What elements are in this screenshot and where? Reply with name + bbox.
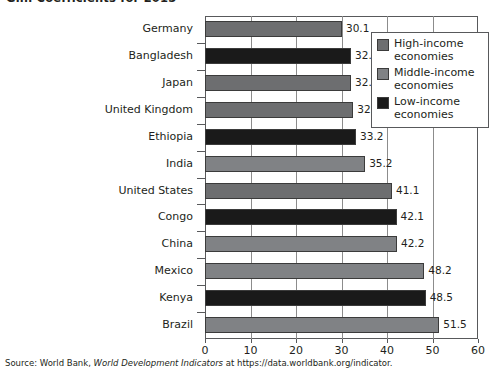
legend-item[interactable]: Low-incomeeconomies — [377, 96, 482, 121]
bar[interactable] — [205, 129, 356, 145]
bar[interactable] — [205, 75, 351, 91]
bar[interactable] — [205, 263, 424, 279]
bar-row: 42.2 — [205, 231, 478, 258]
legend-label: High-incomeeconomies — [394, 38, 464, 63]
bar[interactable] — [205, 317, 439, 333]
value-axis-tick-label: 0 — [202, 344, 209, 357]
value-axis-tick-label: 60 — [471, 344, 485, 357]
bar[interactable] — [205, 183, 392, 199]
category-tick — [197, 151, 205, 152]
source-prefix: Source: World Bank, — [5, 358, 94, 368]
bar[interactable] — [205, 48, 351, 64]
category-tick — [197, 97, 205, 98]
category-tick — [197, 231, 205, 232]
value-axis-tick-label: 10 — [244, 344, 258, 357]
category-tick — [197, 178, 205, 179]
category-tick — [197, 312, 205, 313]
category-label: China — [0, 231, 199, 258]
legend-label: Low-incomeeconomies — [394, 96, 460, 121]
bar-row: 41.1 — [205, 178, 478, 205]
bar[interactable] — [205, 21, 342, 37]
category-label: Brazil — [0, 312, 199, 339]
category-label: Mexico — [0, 258, 199, 285]
category-label: Japan — [0, 70, 199, 97]
chart-legend: High-incomeeconomiesMiddle-incomeeconomi… — [371, 32, 489, 128]
legend-label-line1: High-income — [394, 38, 464, 51]
value-axis-tick-label: 20 — [289, 344, 303, 357]
bar-row: 42.1 — [205, 204, 478, 231]
bar-value-label: 51.5 — [443, 316, 466, 333]
bar[interactable] — [205, 236, 397, 252]
legend-label-line2: economies — [394, 80, 475, 93]
category-tick — [197, 70, 205, 71]
category-tick — [197, 43, 205, 44]
source-suffix: at https://data.worldbank.org/indicator. — [223, 358, 392, 368]
source-note: Source: World Bank, World Development In… — [5, 358, 393, 368]
bar[interactable] — [205, 156, 365, 172]
bar[interactable] — [205, 209, 397, 225]
category-label: Bangladesh — [0, 43, 199, 70]
category-label: United States — [0, 178, 199, 205]
gini-coefficient-bar-chart: GermanyBangladeshJapanUnited KingdomEthi… — [0, 0, 496, 372]
category-label: Germany — [0, 16, 199, 43]
category-label: Congo — [0, 204, 199, 231]
legend-label-line2: economies — [394, 109, 460, 122]
value-axis-tick — [433, 339, 434, 343]
legend-item[interactable]: Middle-incomeeconomies — [377, 67, 482, 92]
bar-row: 35.2 — [205, 151, 478, 178]
value-axis-tick — [387, 339, 388, 343]
category-tick — [197, 124, 205, 125]
value-axis-tick — [478, 339, 479, 343]
value-axis-tick-label: 40 — [380, 344, 394, 357]
value-axis-tick — [205, 339, 206, 343]
legend-swatch-icon — [377, 97, 389, 109]
category-tick — [197, 258, 205, 259]
bar-row: 51.5 — [205, 312, 478, 339]
category-axis-labels: GermanyBangladeshJapanUnited KingdomEthi… — [0, 16, 199, 339]
bar-value-label: 35.2 — [369, 155, 392, 172]
legend-item[interactable]: High-incomeeconomies — [377, 38, 482, 63]
category-label: Ethiopia — [0, 124, 199, 151]
bar-value-label: 48.5 — [430, 289, 453, 306]
category-tick — [197, 204, 205, 205]
bar-row: 48.5 — [205, 285, 478, 312]
bar-value-label: 48.2 — [428, 262, 451, 279]
value-axis-tick-label: 30 — [335, 344, 349, 357]
legend-label-line2: economies — [394, 51, 464, 64]
bar[interactable] — [205, 102, 353, 118]
category-label: India — [0, 151, 199, 178]
value-axis-tick — [251, 339, 252, 343]
category-label: United Kingdom — [0, 97, 199, 124]
bar-value-label: 33.2 — [360, 128, 383, 145]
value-axis-tick — [342, 339, 343, 343]
bar-value-label: 42.2 — [401, 235, 424, 252]
bar-row: 48.2 — [205, 258, 478, 285]
legend-swatch-icon — [377, 39, 389, 51]
legend-label: Middle-incomeeconomies — [394, 67, 475, 92]
bar-value-label: 30.1 — [346, 20, 369, 37]
legend-swatch-icon — [377, 68, 389, 80]
category-label: Kenya — [0, 285, 199, 312]
bar-value-label: 42.1 — [401, 208, 424, 225]
bar[interactable] — [205, 290, 426, 306]
category-tick — [197, 285, 205, 286]
value-axis-tick-label: 50 — [426, 344, 440, 357]
bar-value-label: 41.1 — [396, 182, 419, 199]
legend-label-line1: Middle-income — [394, 67, 475, 80]
value-axis-tick — [296, 339, 297, 343]
source-publication-title: World Development Indicators — [94, 358, 223, 368]
legend-label-line1: Low-income — [394, 96, 460, 109]
